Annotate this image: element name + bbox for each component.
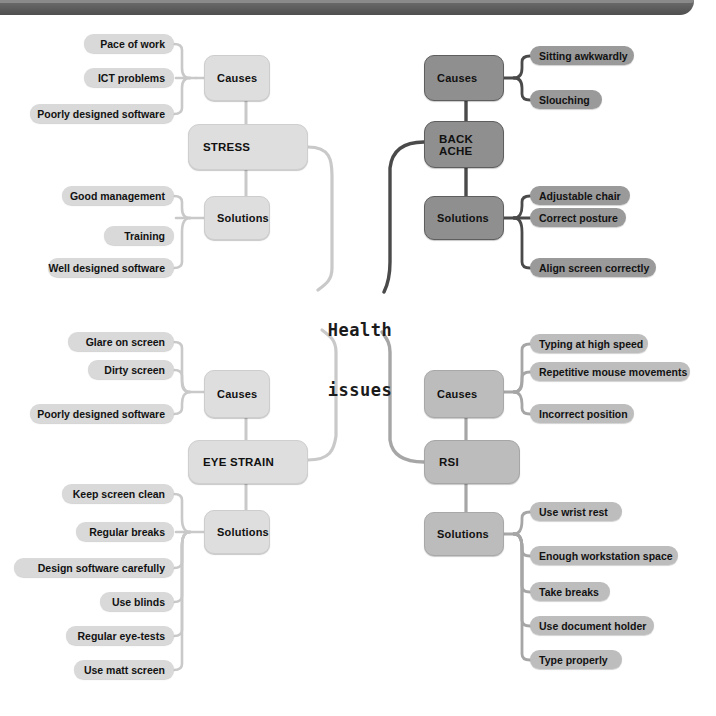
leaf-stress-cause-1[interactable]: Pace of work bbox=[84, 34, 174, 53]
link-rsi-solution-1 bbox=[514, 512, 530, 534]
leaf-backache-solution-2[interactable]: Correct posture bbox=[530, 208, 626, 227]
group-eyestrain-causes-label: Causes bbox=[217, 388, 257, 400]
leaf-label: Use document holder bbox=[539, 620, 646, 632]
leaf-rsi-solution-4[interactable]: Use document holder bbox=[530, 616, 654, 635]
leaf-label: Poorly designed software bbox=[37, 408, 165, 420]
topic-back-ache-label: BACK ACHE bbox=[439, 133, 489, 157]
group-stress-solutions[interactable]: Solutions bbox=[204, 196, 270, 240]
group-eyestrain-solutions[interactable]: Solutions bbox=[204, 510, 270, 554]
leaf-label: Well designed software bbox=[49, 262, 166, 274]
leaf-label: Take breaks bbox=[539, 586, 599, 598]
link-backache-cause-1 bbox=[514, 56, 530, 78]
leaf-eyestrain-cause-3[interactable]: Poorly designed software bbox=[30, 404, 174, 423]
topic-stress[interactable]: STRESS bbox=[188, 124, 308, 170]
leaf-rsi-cause-1[interactable]: Typing at high speed bbox=[530, 334, 648, 353]
leaf-label: Use wrist rest bbox=[539, 506, 608, 518]
leaf-label: Regular eye-tests bbox=[77, 630, 165, 642]
center-topic: Health issues bbox=[305, 280, 415, 440]
leaf-label: Type properly bbox=[539, 654, 608, 666]
leaf-label: Regular breaks bbox=[89, 526, 165, 538]
topic-rsi-label: RSI bbox=[439, 456, 459, 468]
group-stress-causes-label: Causes bbox=[217, 72, 257, 84]
leaf-label: Use blinds bbox=[112, 596, 165, 608]
leaf-eyestrain-solution-2[interactable]: Regular breaks bbox=[76, 522, 174, 541]
leaf-stress-solution-3[interactable]: Well designed software bbox=[48, 258, 174, 277]
group-eyestrain-solutions-label: Solutions bbox=[217, 526, 269, 538]
group-backache-causes-label: Causes bbox=[437, 72, 477, 84]
leaf-stress-solution-1[interactable]: Good management bbox=[62, 186, 174, 205]
leaf-label: Repetitive mouse movements bbox=[539, 366, 687, 378]
link-rsi-cause-2 bbox=[514, 372, 530, 392]
leaf-stress-solution-2[interactable]: Training bbox=[104, 226, 174, 245]
leaf-label: Enough workstation space bbox=[539, 550, 673, 562]
leaf-stress-cause-2[interactable]: ICT problems bbox=[84, 68, 174, 87]
leaf-label: Sitting awkwardly bbox=[539, 50, 628, 62]
group-rsi-causes[interactable]: Causes bbox=[424, 370, 504, 418]
leaf-backache-cause-2[interactable]: Slouching bbox=[530, 90, 602, 109]
group-rsi-solutions[interactable]: Solutions bbox=[424, 512, 504, 556]
leaf-rsi-cause-3[interactable]: Incorrect position bbox=[530, 404, 634, 423]
leaf-eyestrain-solution-3[interactable]: Design software carefully bbox=[14, 558, 174, 577]
leaf-eyestrain-solution-1[interactable]: Keep screen clean bbox=[62, 484, 174, 503]
leaf-rsi-solution-1[interactable]: Use wrist rest bbox=[530, 502, 622, 521]
group-backache-causes[interactable]: Causes bbox=[424, 55, 504, 101]
leaf-label: Slouching bbox=[539, 94, 590, 106]
leaf-stress-cause-3[interactable]: Poorly designed software bbox=[30, 104, 174, 123]
link-stress-solution-1 bbox=[174, 196, 190, 218]
group-eyestrain-causes[interactable]: Causes bbox=[204, 370, 270, 418]
leaf-label: Adjustable chair bbox=[539, 190, 621, 202]
group-backache-solutions-label: Solutions bbox=[437, 212, 489, 224]
leaf-backache-cause-1[interactable]: Sitting awkwardly bbox=[530, 46, 634, 65]
leaf-rsi-solution-3[interactable]: Take breaks bbox=[530, 582, 610, 601]
leaf-label: Align screen correctly bbox=[539, 262, 649, 274]
topic-eye-strain-label: EYE STRAIN bbox=[203, 456, 274, 468]
topic-eye-strain[interactable]: EYE STRAIN bbox=[188, 440, 308, 484]
link-backache-solution-3 bbox=[514, 218, 530, 268]
link-rsi-solution-5 bbox=[514, 534, 530, 660]
leaf-backache-solution-1[interactable]: Adjustable chair bbox=[530, 186, 630, 205]
group-backache-solutions[interactable]: Solutions bbox=[424, 196, 504, 240]
leaf-eyestrain-cause-2[interactable]: Dirty screen bbox=[88, 360, 174, 379]
link-hub-stress bbox=[308, 147, 332, 290]
leaf-label: Pace of work bbox=[100, 38, 165, 50]
leaf-backache-solution-3[interactable]: Align screen correctly bbox=[530, 258, 656, 277]
link-eyestrain-cause-2 bbox=[174, 370, 190, 392]
leaf-label: Good management bbox=[70, 190, 165, 202]
link-eyestrain-solution-1 bbox=[174, 494, 190, 532]
link-eyestrain-cause-3 bbox=[174, 392, 190, 414]
leaf-label: Poorly designed software bbox=[37, 108, 165, 120]
leaf-label: Training bbox=[124, 230, 165, 242]
leaf-label: Use matt screen bbox=[84, 664, 165, 676]
leaf-label: Dirty screen bbox=[104, 364, 165, 376]
group-rsi-causes-label: Causes bbox=[437, 388, 477, 400]
group-stress-solutions-label: Solutions bbox=[217, 212, 269, 224]
topic-back-ache[interactable]: BACK ACHE bbox=[424, 121, 504, 168]
topic-stress-label: STRESS bbox=[203, 141, 250, 153]
link-stress-cause-3 bbox=[174, 78, 190, 114]
leaf-eyestrain-cause-1[interactable]: Glare on screen bbox=[68, 332, 174, 351]
link-backache-cause-2 bbox=[514, 78, 530, 100]
group-stress-causes[interactable]: Causes bbox=[204, 55, 270, 101]
leaf-label: Incorrect position bbox=[539, 408, 628, 420]
leaf-eyestrain-solution-4[interactable]: Use blinds bbox=[100, 592, 174, 611]
leaf-label: Glare on screen bbox=[86, 336, 165, 348]
leaf-label: Keep screen clean bbox=[73, 488, 165, 500]
leaf-eyestrain-solution-6[interactable]: Use matt screen bbox=[74, 660, 174, 679]
link-hub-back-ache bbox=[384, 142, 424, 292]
topic-rsi[interactable]: RSI bbox=[424, 440, 520, 484]
leaf-rsi-cause-2[interactable]: Repetitive mouse movements bbox=[530, 362, 690, 381]
center-topic-line1: Health bbox=[305, 320, 415, 340]
mindmap-canvas: Health issues STRESS Causes Solutions Pa… bbox=[0, 0, 716, 716]
group-rsi-solutions-label: Solutions bbox=[437, 528, 489, 540]
leaf-label: Design software carefully bbox=[38, 562, 165, 574]
leaf-rsi-solution-2[interactable]: Enough workstation space bbox=[530, 546, 678, 565]
leaf-label: ICT problems bbox=[98, 72, 165, 84]
leaf-label: Typing at high speed bbox=[539, 338, 643, 350]
leaf-label: Correct posture bbox=[539, 212, 618, 224]
link-stress-solution-3 bbox=[174, 218, 190, 268]
link-rsi-cause-3 bbox=[514, 392, 530, 414]
link-stress-cause-1 bbox=[174, 44, 190, 78]
leaf-eyestrain-solution-5[interactable]: Regular eye-tests bbox=[66, 626, 174, 645]
center-topic-line2: issues bbox=[305, 380, 415, 400]
leaf-rsi-solution-5[interactable]: Type properly bbox=[530, 650, 622, 669]
